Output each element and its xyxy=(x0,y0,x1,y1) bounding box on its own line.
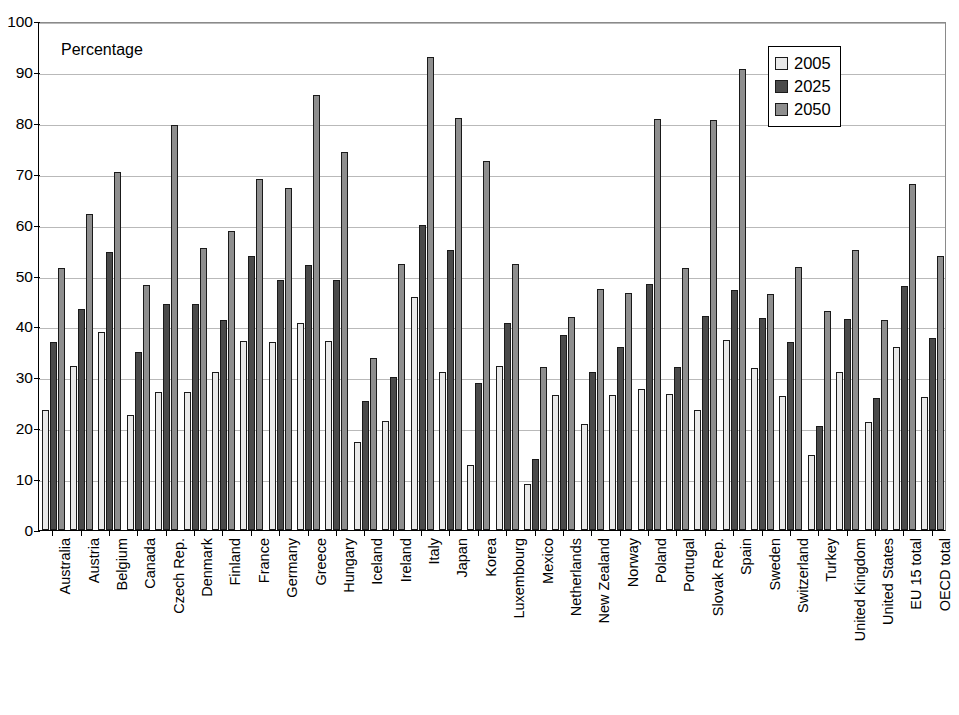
bar-group xyxy=(382,23,405,530)
legend-item-2025: 2025 xyxy=(775,75,831,98)
x-axis-category-label: Luxembourg xyxy=(512,538,527,619)
legend-swatch-icon xyxy=(775,57,788,70)
x-axis-category-label: Korea xyxy=(484,538,499,577)
bar-2005 xyxy=(269,342,276,530)
bar-2025 xyxy=(447,250,454,530)
bar-2005 xyxy=(325,341,332,530)
x-tick-mark xyxy=(336,531,337,536)
bar-2005 xyxy=(496,366,503,530)
bar-2005 xyxy=(552,395,559,530)
x-tick-mark xyxy=(449,531,450,536)
x-tick-mark xyxy=(137,531,138,536)
x-tick-mark xyxy=(847,531,848,536)
bar-2050 xyxy=(654,119,661,530)
bar-2005 xyxy=(779,396,786,530)
bar-group xyxy=(638,23,661,530)
bar-2025 xyxy=(78,309,85,530)
bar-2005 xyxy=(723,340,730,530)
x-tick-mark xyxy=(222,531,223,536)
legend-swatch-icon xyxy=(775,80,788,93)
x-tick-mark xyxy=(506,531,507,536)
bar-group xyxy=(496,23,519,530)
bar-2025 xyxy=(333,280,340,530)
x-axis-category-label: Sweden xyxy=(768,538,783,590)
x-axis-category-label: Czech Rep. xyxy=(172,538,187,614)
bar-group xyxy=(524,23,547,530)
x-tick-mark xyxy=(166,531,167,536)
bar-2050 xyxy=(228,231,235,530)
x-axis-category-label: United States xyxy=(881,538,896,625)
legend-item-2005: 2005 xyxy=(775,52,831,75)
x-axis-category-label: Iceland xyxy=(370,538,385,585)
x-tick-mark xyxy=(620,531,621,536)
bar-2025 xyxy=(560,335,567,530)
bar-group xyxy=(240,23,263,530)
bar-2050 xyxy=(58,268,65,530)
bar-2025 xyxy=(390,377,397,530)
bar-group xyxy=(666,23,689,530)
bar-2050 xyxy=(143,285,150,530)
bar-group xyxy=(865,23,888,530)
bar-2005 xyxy=(240,341,247,530)
bar-2050 xyxy=(171,125,178,530)
bar-2025 xyxy=(475,383,482,530)
bar-2050 xyxy=(114,172,121,530)
bar-2025 xyxy=(220,320,227,530)
x-tick-mark xyxy=(705,531,706,536)
x-tick-mark xyxy=(648,531,649,536)
x-axis-category-label: OECD total xyxy=(938,538,953,611)
x-tick-mark xyxy=(194,531,195,536)
x-axis-category-label: Italy xyxy=(427,538,442,565)
bar-group xyxy=(893,23,916,530)
bar-2005 xyxy=(694,410,701,530)
x-tick-mark xyxy=(733,531,734,536)
bar-2005 xyxy=(155,392,162,530)
bar-group xyxy=(98,23,121,530)
x-axis-category-label: Greece xyxy=(314,538,329,586)
bar-2050 xyxy=(795,267,802,530)
bar-group xyxy=(609,23,632,530)
x-axis-category-label: Germany xyxy=(285,538,300,598)
bar-2025 xyxy=(589,372,596,530)
y-tick-label: 60 xyxy=(3,218,33,234)
y-tick-label: 100 xyxy=(3,14,33,30)
x-axis-category-label: Australia xyxy=(58,538,73,594)
bar-2025 xyxy=(929,338,936,530)
bar-2050 xyxy=(370,358,377,530)
y-tick-label: 70 xyxy=(3,167,33,183)
bar-2025 xyxy=(674,367,681,530)
x-tick-mark xyxy=(903,531,904,536)
bar-2005 xyxy=(666,394,673,530)
bar-group xyxy=(155,23,178,530)
bar-2025 xyxy=(50,342,57,530)
bar-2025 xyxy=(192,304,199,530)
x-axis-category-label: Spain xyxy=(739,538,754,575)
bar-2005 xyxy=(382,421,389,530)
legend: 200520252050 xyxy=(768,46,841,127)
bar-group xyxy=(439,23,462,530)
bar-2005 xyxy=(184,392,191,530)
bar-2050 xyxy=(824,311,831,530)
bar-2005 xyxy=(808,455,815,530)
x-tick-mark xyxy=(762,531,763,536)
x-tick-mark xyxy=(563,531,564,536)
bar-group xyxy=(70,23,93,530)
y-tick-label: 0 xyxy=(3,523,33,539)
bar-2005 xyxy=(70,366,77,530)
bar-2025 xyxy=(106,252,113,530)
x-axis-category-label: Switzerland xyxy=(796,538,811,613)
x-axis-category-label: Norway xyxy=(626,538,641,587)
bar-group xyxy=(581,23,604,530)
bar-2050 xyxy=(767,294,774,530)
bar-group xyxy=(127,23,150,530)
bar-2025 xyxy=(135,352,142,530)
x-tick-mark xyxy=(393,531,394,536)
x-axis-labels: AustraliaAustriaBelgiumCanadaCzech Rep.D… xyxy=(38,534,946,715)
bar-2025 xyxy=(901,286,908,530)
bar-2050 xyxy=(739,69,746,530)
bar-2025 xyxy=(873,398,880,530)
percentage-annotation: Percentage xyxy=(61,41,143,59)
x-tick-mark xyxy=(52,531,53,536)
x-axis-category-label: New Zealand xyxy=(597,538,612,623)
y-tick-label: 30 xyxy=(3,370,33,386)
